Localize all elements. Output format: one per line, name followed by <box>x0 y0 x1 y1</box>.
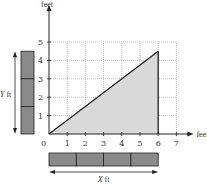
y-tick-label: 3 <box>38 75 43 84</box>
y-unit: ft <box>4 90 12 99</box>
x-tick-label: 4 <box>119 139 124 148</box>
x-dimension-arrow <box>49 170 158 174</box>
x-bar-segment <box>49 153 76 166</box>
diagram: 1234567 12345 feet feet 0 X ft Y ft <box>0 0 207 184</box>
x-axis-arrow-icon <box>187 132 193 137</box>
arrowhead-up-icon <box>13 51 17 57</box>
y-bar-segment <box>21 79 34 107</box>
x-axis-label: feet <box>196 130 207 139</box>
y-tick-label: 5 <box>38 38 43 47</box>
x-tick-label: 6 <box>156 139 161 148</box>
y-bar-segment <box>21 51 34 79</box>
y-dimension-arrow <box>13 51 17 134</box>
x-tick-label: 3 <box>101 139 106 148</box>
x-tick-label: 5 <box>137 139 142 148</box>
y-axis-label: feet <box>41 0 54 9</box>
x-tick-label: 1 <box>65 139 70 148</box>
x-bar-segment <box>131 153 158 166</box>
x-bar-segment <box>76 153 103 166</box>
y-tick-label: 1 <box>38 112 43 121</box>
y-dimension-label: Y ft <box>0 90 12 99</box>
x-tick-label: 7 <box>174 139 179 148</box>
arrowhead-right-icon <box>152 170 158 174</box>
y-tick-label: 2 <box>38 93 43 102</box>
x-bar-segment <box>104 153 131 166</box>
y-tick-label: 4 <box>38 56 43 65</box>
x-unit: ft <box>103 175 111 184</box>
y-bar-segment <box>21 106 34 134</box>
y-length-bar <box>21 51 34 134</box>
arrowhead-left-icon <box>49 170 55 174</box>
arrowhead-down-icon <box>13 128 17 134</box>
x-length-bar <box>49 153 158 166</box>
x-dimension-label: X ft <box>97 175 111 184</box>
x-tick-label: 2 <box>83 139 88 148</box>
origin-label: 0 <box>41 139 46 148</box>
